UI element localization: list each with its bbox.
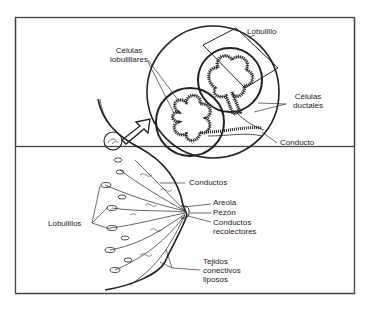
label-areola: Areola: [213, 198, 236, 207]
diagram-canvas: [0, 0, 371, 313]
magnified-lobule-icon: [147, 26, 279, 158]
label-tejidos-conectivos-liposos: Tejidos conectivos liposos: [203, 257, 241, 284]
diagram-border-full: [16, 18, 355, 147]
label-celulas-ductales: Células ductales: [287, 92, 329, 110]
label-conductos-recolectores: Conductos recolectores: [213, 218, 257, 236]
label-conducto: Conducto: [280, 138, 314, 147]
label-celulas-lobulillares: Células lobulillares: [103, 46, 155, 64]
label-lobulillos: Lobulillos: [48, 219, 81, 228]
diagram-border: [16, 18, 355, 147]
label-lobulillo: Lobulillo: [247, 27, 276, 36]
label-pezon: Pezón: [213, 208, 236, 217]
label-conductos: Conductos: [189, 178, 227, 187]
